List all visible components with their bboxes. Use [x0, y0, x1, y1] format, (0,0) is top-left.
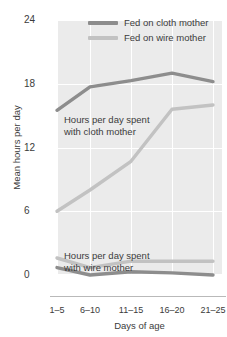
legend-swatch-wire-icon — [88, 36, 118, 40]
legend-swatch-cloth-icon — [88, 21, 118, 25]
x-tick-label-16-20: 16–20 — [150, 305, 194, 315]
legend-item-wire: Fed on wire mother — [88, 31, 209, 44]
legend-item-cloth: Fed on cloth mother — [88, 16, 209, 29]
plot-area — [57, 20, 222, 275]
annotation-cloth-line2: with cloth mother — [64, 126, 150, 138]
series-lines — [57, 20, 222, 275]
x-tick-label-6-10: 6–10 — [68, 305, 112, 315]
annotation-cloth-line1: Hours per day spent — [64, 114, 150, 126]
annotation-cloth-mother: Hours per day spent with cloth mother — [64, 114, 150, 138]
x-tick-label-11-15: 11–15 — [109, 305, 153, 315]
y-tick-label-0: 0 — [24, 270, 52, 280]
annotation-wire-mother: Hours per day spent with wire mother — [64, 250, 150, 274]
y-tick-label-24: 24 — [24, 15, 52, 25]
x-tick-label-21-25: 21–25 — [191, 305, 227, 315]
y-tick-label-18: 18 — [24, 79, 52, 89]
series-line-cloth-with-cloth — [57, 73, 213, 110]
y-tick-label-12: 12 — [24, 143, 52, 153]
legend-label-cloth: Fed on cloth mother — [124, 17, 209, 28]
y-tick-label-6: 6 — [24, 206, 52, 216]
legend: Fed on cloth mother Fed on wire mother — [88, 16, 209, 44]
x-axis-line — [50, 296, 226, 297]
annotation-wire-line1: Hours per day spent — [64, 250, 150, 262]
legend-label-wire: Fed on wire mother — [124, 32, 206, 43]
annotation-wire-line2: with wire mother — [64, 262, 150, 274]
y-axis-title: Mean hours per day — [11, 88, 22, 208]
line-chart: 24 18 12 6 0 1–5 6–10 11–15 16–20 21–25 … — [0, 0, 227, 337]
x-axis-title: Days of age — [57, 320, 222, 331]
